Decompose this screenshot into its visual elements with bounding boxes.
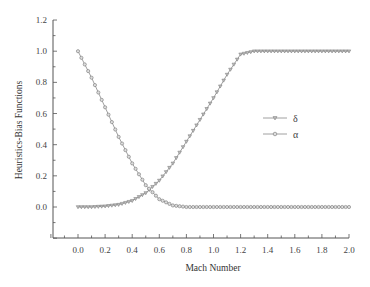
series-alpha [76, 50, 350, 209]
x-tick-label: 1.8 [316, 245, 328, 255]
data-point [202, 205, 205, 208]
data-point [347, 205, 350, 208]
data-point [219, 205, 222, 208]
legend-label: δ [293, 113, 298, 124]
data-point [107, 113, 110, 116]
data-point [120, 142, 123, 145]
data-point [236, 205, 239, 208]
data-point [341, 205, 344, 208]
data-point [137, 196, 141, 199]
data-point [297, 205, 300, 208]
data-point [314, 205, 317, 208]
data-point [181, 205, 184, 208]
data-point [100, 98, 103, 101]
data-point [327, 205, 330, 208]
data-point [218, 85, 222, 88]
data-point [134, 167, 137, 170]
data-point [168, 202, 171, 205]
data-point [110, 120, 113, 123]
y-tick-label: 0.4 [36, 140, 48, 150]
data-point [185, 205, 188, 208]
series-delta [76, 50, 351, 209]
data-point [141, 194, 145, 197]
data-point [212, 205, 215, 208]
data-point [127, 155, 130, 158]
data-point [134, 198, 138, 201]
data-point [337, 205, 340, 208]
data-point [205, 205, 208, 208]
data-point [90, 76, 93, 79]
y-tick-label: 0.2 [36, 171, 47, 181]
data-point [330, 205, 333, 208]
y-tick-label: 1.0 [36, 46, 48, 56]
data-point [148, 187, 151, 190]
x-tick-label: 1.4 [262, 245, 274, 255]
y-tick-label: 0.6 [36, 109, 48, 119]
data-point [307, 205, 310, 208]
data-point [131, 162, 134, 165]
data-point [188, 205, 191, 208]
x-tick-label: 0.2 [99, 245, 110, 255]
data-point [87, 69, 90, 72]
data-point [303, 205, 306, 208]
data-point [293, 205, 296, 208]
data-point [192, 205, 195, 208]
data-point [283, 205, 286, 208]
data-point [158, 198, 161, 201]
data-point [232, 205, 235, 208]
y-tick-label: 0.8 [36, 77, 48, 87]
data-point [269, 205, 272, 208]
legend: δα [263, 113, 299, 140]
data-point [151, 191, 154, 194]
data-point [273, 205, 276, 208]
data-point [344, 205, 347, 208]
data-point [154, 194, 157, 197]
data-point [229, 205, 232, 208]
data-point [164, 201, 167, 204]
data-point [317, 205, 320, 208]
data-point [259, 205, 262, 208]
data-point [276, 205, 279, 208]
data-point [334, 205, 337, 208]
data-point [310, 205, 313, 208]
data-point [195, 205, 198, 208]
data-point [256, 205, 259, 208]
legend-item-delta: δ [263, 113, 298, 124]
data-point [144, 192, 148, 195]
legend-label: α [293, 129, 299, 140]
y-tick-label: 0.0 [36, 202, 48, 212]
data-point [80, 56, 83, 59]
data-point [97, 91, 100, 94]
x-tick-label: 0.8 [181, 245, 193, 255]
data-point [93, 83, 96, 86]
x-tick-label: 0.6 [154, 245, 166, 255]
x-tick-label: 1.6 [289, 245, 301, 255]
data-point [178, 205, 181, 208]
data-point [225, 205, 228, 208]
data-point [124, 149, 127, 152]
data-point [141, 178, 144, 181]
x-axis-title: Mach Number [185, 263, 241, 273]
x-tick-label: 2.0 [343, 245, 355, 255]
y-tick-label: 1.2 [36, 15, 47, 25]
data-point [215, 205, 218, 208]
data-point [117, 135, 120, 138]
data-point [324, 205, 327, 208]
data-point [209, 205, 212, 208]
x-tick-label: 1.0 [208, 245, 220, 255]
data-point [104, 106, 107, 109]
data-point [222, 79, 226, 82]
data-point [137, 173, 140, 176]
data-point [242, 205, 245, 208]
data-point [253, 205, 256, 208]
y-axis-title: Heuristics-Bias Functions [14, 80, 24, 179]
legend-item-alpha: α [263, 129, 299, 140]
data-point [161, 199, 164, 202]
x-tick-label: 1.2 [235, 245, 246, 255]
series-layer [76, 50, 351, 209]
chart: 0.00.20.40.60.81.01.20.00.20.40.60.81.01… [0, 0, 370, 287]
data-point [198, 205, 201, 208]
data-point [175, 204, 178, 207]
data-point [171, 204, 174, 207]
data-point [246, 205, 249, 208]
